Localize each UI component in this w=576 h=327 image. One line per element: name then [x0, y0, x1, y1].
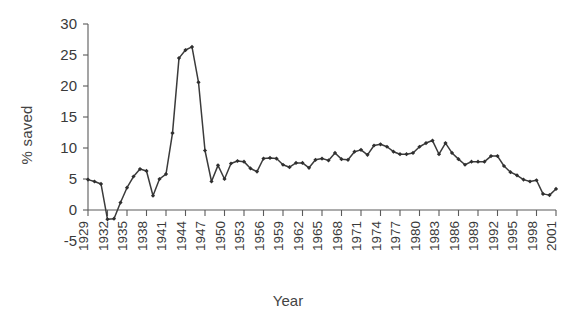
data-point-marker	[151, 194, 155, 198]
data-point-marker	[378, 142, 382, 146]
x-tick-label: 1962	[291, 221, 306, 251]
y-tick-label: 20	[60, 77, 77, 94]
y-tick-label: 0	[69, 201, 77, 218]
y-axis-ticks: 302520151050-5	[60, 15, 88, 249]
x-tick-label: 1989	[466, 221, 481, 251]
chart-figure: % saved Year 302520151050-5 192919321935…	[0, 0, 576, 327]
x-tick-label: 1965	[310, 221, 325, 251]
plot-area: 302520151050-5 1929193219351938194119441…	[0, 0, 576, 327]
data-point-marker	[99, 182, 103, 186]
data-point-marker	[92, 179, 96, 183]
data-point-marker	[112, 217, 116, 221]
data-series-markers	[86, 45, 558, 222]
y-tick-label: 10	[60, 139, 77, 156]
x-tick-label: 1971	[349, 221, 364, 251]
y-tick-label: 15	[60, 108, 77, 125]
x-tick-label: 1998	[525, 221, 540, 251]
data-point-marker	[144, 169, 148, 173]
data-point-marker	[476, 160, 480, 164]
x-tick-label: 1959	[271, 221, 286, 251]
x-tick-label: 1932	[96, 221, 111, 251]
x-tick-label: 1938	[135, 221, 150, 251]
data-point-marker	[320, 156, 324, 160]
x-tick-label: 1995	[505, 221, 520, 251]
data-point-marker	[268, 156, 272, 160]
x-tick-label: 1944	[174, 221, 189, 252]
data-point-marker	[196, 80, 200, 84]
x-tick-label: 1947	[193, 221, 208, 251]
y-tick-label: 25	[60, 46, 77, 63]
x-tick-label: 2001	[544, 221, 559, 251]
data-point-marker	[404, 152, 408, 156]
data-series-line	[88, 47, 556, 219]
data-point-marker	[203, 148, 207, 152]
data-point-marker	[209, 179, 213, 183]
data-point-marker	[170, 131, 174, 135]
x-tick-label: 1956	[252, 221, 267, 251]
data-point-marker	[229, 161, 233, 165]
x-tick-label: 1983	[427, 221, 442, 251]
data-point-marker	[235, 159, 239, 163]
x-tick-label: 1929	[76, 221, 91, 251]
data-point-marker	[528, 179, 532, 183]
data-point-marker	[118, 200, 122, 204]
x-tick-label: 1977	[388, 221, 403, 251]
x-tick-label: 1941	[154, 221, 169, 251]
data-point-marker	[398, 152, 402, 156]
data-point-marker	[86, 178, 90, 182]
x-tick-label: 1992	[486, 221, 501, 251]
x-tick-label: 1980	[408, 221, 423, 251]
x-tick-label: 1974	[369, 221, 384, 252]
x-tick-label: 1935	[115, 221, 130, 251]
x-tick-label: 1953	[232, 221, 247, 251]
x-tick-label: 1968	[330, 221, 345, 251]
x-tick-label: 1986	[447, 221, 462, 251]
y-tick-label: 30	[60, 15, 77, 32]
x-axis-ticks: 1929193219351938194119441947195019531956…	[76, 210, 559, 251]
y-tick-label: -5	[64, 232, 77, 249]
y-tick-label: 5	[69, 170, 77, 187]
x-tick-label: 1950	[213, 221, 228, 251]
data-point-marker	[105, 217, 109, 221]
